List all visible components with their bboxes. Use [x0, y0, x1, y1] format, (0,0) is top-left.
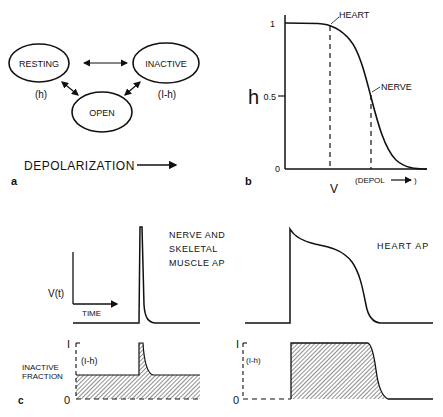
nerve-ap-title-3: MUSCLE AP: [169, 258, 225, 268]
arrow-inactive-open: [125, 82, 140, 95]
nerve-ap-title-2: SKELETAL: [169, 244, 218, 254]
panel-label-b: b: [245, 175, 252, 187]
ytick-half: 0.5: [263, 92, 276, 102]
heart-ap-title: HEART AP: [377, 241, 429, 251]
x-label-v: V: [330, 182, 338, 196]
fraction-resting: (h): [35, 89, 47, 100]
nerve-annotation: NERVE: [381, 82, 412, 92]
state-open-label: OPEN: [89, 108, 115, 118]
inactive-fraction-label-1: INACTIVE: [22, 363, 59, 372]
nerve-ap-title-1: NERVE AND: [169, 230, 225, 240]
panel-c-heart: HEART AP I 0 (I-h): [233, 229, 433, 406]
time-label: TIME: [82, 309, 101, 318]
nerve-fraction-label: (I-h): [81, 356, 98, 366]
heart-ytick-0: 0: [233, 394, 239, 406]
heart-ytick-1: I: [236, 338, 239, 350]
arrow-resting-open: [62, 82, 78, 95]
ytick-1: 1: [270, 19, 275, 29]
panel-label-a: a: [11, 175, 18, 187]
heart-annotation: HEART: [339, 10, 370, 20]
panel-c-nerve: NERVE AND SKELETAL MUSCLE AP V(t) TIME I…: [18, 227, 225, 406]
fraction-inactive: (I-h): [158, 89, 176, 100]
nerve-ytick-1: I: [67, 338, 70, 350]
heart-pointer: [331, 17, 339, 24]
vt-label: V(t): [48, 288, 64, 299]
panel-label-c: c: [18, 395, 24, 406]
y-label-h: h: [248, 86, 259, 108]
inactive-fraction-label-2: FRACTION: [22, 372, 63, 381]
heart-inactive-fill: [291, 343, 386, 399]
nerve-ytick-0: 0: [64, 394, 70, 406]
panel-b: 1 0.5 0 h HEART NERVE V (DEPOL ) b: [245, 10, 427, 196]
state-inactive-label: INACTIVE: [145, 59, 187, 69]
depolarization-label: DEPOLARIZATION: [24, 159, 135, 173]
figure-canvas: RESTING INACTIVE OPEN (h) (I-h) DEPOLARI…: [0, 0, 443, 417]
panel-a: RESTING INACTIVE OPEN (h) (I-h) DEPOLARI…: [9, 43, 199, 187]
depol-note-close: ): [414, 176, 417, 185]
depol-note: (DEPOL: [355, 176, 385, 185]
nerve-pointer: [372, 87, 380, 92]
h-curve: [285, 23, 427, 169]
heart-fraction-label: (I-h): [246, 356, 261, 365]
state-resting-label: RESTING: [19, 59, 59, 69]
nerve-inactive-fill: [76, 343, 200, 399]
ytick-0: 0: [275, 164, 280, 174]
